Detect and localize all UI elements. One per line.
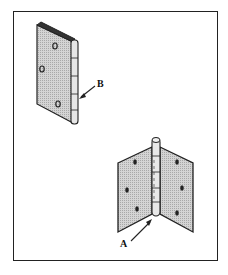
- closed-hinge: [37, 22, 78, 124]
- hinge-diagram: [0, 0, 228, 275]
- label-a: A: [120, 238, 127, 249]
- label-b: B: [97, 78, 104, 89]
- open-hinge: [118, 138, 193, 233]
- label-b-arrow: [79, 86, 95, 99]
